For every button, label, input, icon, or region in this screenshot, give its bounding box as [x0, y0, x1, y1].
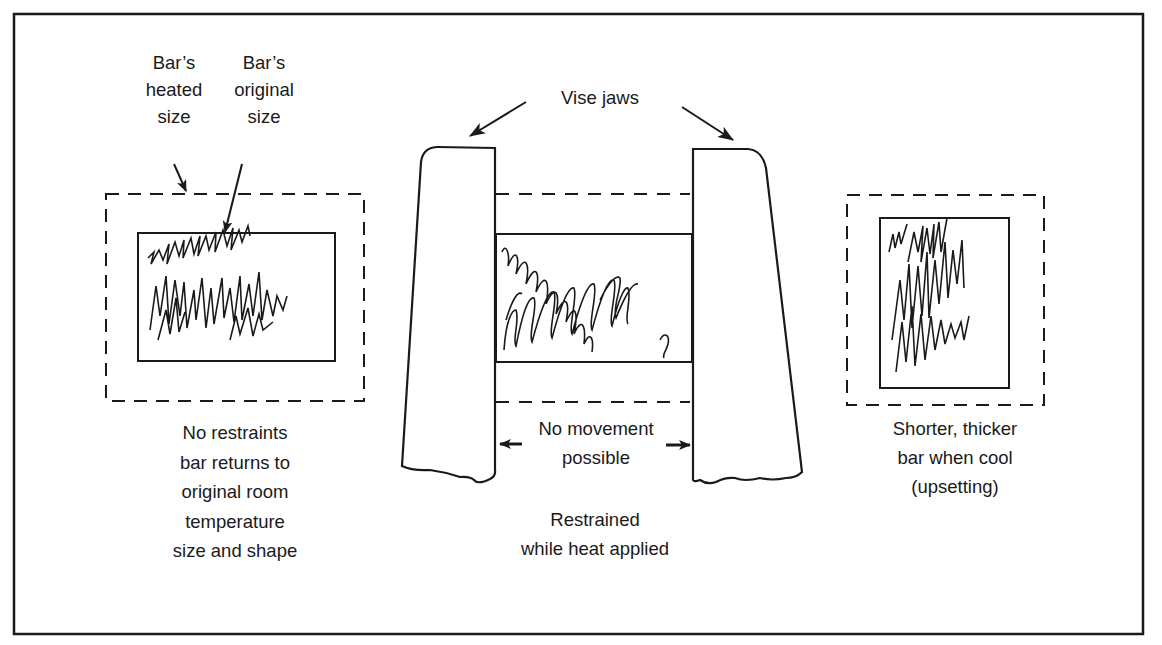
left-caption: No restraints bar returns to original ro…	[130, 418, 340, 566]
diagram-canvas: Bar’s heated size Bar’s original size No…	[0, 0, 1162, 645]
right-caption: Shorter, thicker bar when cool (upsettin…	[855, 414, 1055, 501]
right-vise-jaw	[693, 149, 802, 483]
right-upset-bar	[880, 218, 1009, 388]
no-movement-label: No movement possible	[514, 414, 678, 472]
left-annotation-arrows	[174, 164, 242, 232]
vise-jaws-label: Vise jaws	[530, 84, 670, 111]
heated-size-label: Bar’s heated size	[138, 49, 210, 130]
center-caption: Restrained while heat applied	[490, 505, 700, 563]
left-original-bar	[138, 226, 335, 361]
left-vise-jaw	[402, 147, 495, 482]
center-restrained-bar	[496, 234, 692, 362]
original-size-label: Bar’s original size	[222, 49, 306, 130]
